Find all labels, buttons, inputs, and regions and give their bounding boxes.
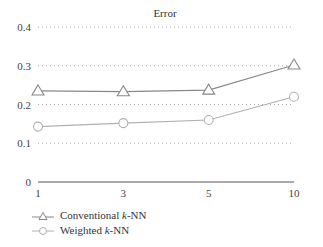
circle-marker — [204, 116, 213, 125]
legend: Conventional k-NN Weighted k-NN — [32, 208, 146, 238]
x-tick-label: 10 — [289, 187, 301, 199]
y-grid — [38, 27, 294, 143]
x-tick-label: 3 — [121, 187, 127, 199]
triangle-marker-icon — [32, 211, 54, 221]
y-tick-label: 0.4 — [17, 21, 31, 33]
chart-title: Error — [153, 7, 177, 19]
triangle-marker — [288, 59, 300, 69]
legend-label: Conventional k-NN — [60, 208, 146, 223]
circle-marker — [34, 122, 43, 131]
circle-marker — [119, 119, 128, 128]
series-conventional-k-nn — [32, 59, 300, 96]
x-axis-ticks: 13510 — [35, 187, 300, 199]
series-weighted-k-nn — [34, 92, 299, 131]
circle-marker — [290, 92, 299, 101]
y-tick-label: 0 — [26, 176, 32, 188]
x-tick-label: 5 — [206, 187, 212, 199]
y-tick-label: 0.1 — [17, 137, 31, 149]
y-tick-label: 0.2 — [17, 99, 31, 111]
legend-label: Weighted k-NN — [60, 223, 129, 238]
legend-item-conventional-knn: Conventional k-NN — [32, 208, 146, 223]
y-axis-ticks: 00.10.20.30.4 — [17, 21, 31, 188]
series-group — [32, 59, 300, 131]
x-tick-label: 1 — [35, 187, 41, 199]
circle-marker-icon — [32, 226, 54, 236]
triangle-marker — [117, 86, 129, 96]
triangle-marker — [32, 85, 44, 95]
line-chart: Error 00.10.20.30.4 13510 — [0, 0, 323, 205]
y-tick-label: 0.3 — [17, 60, 31, 72]
legend-item-weighted-knn: Weighted k-NN — [32, 223, 146, 238]
